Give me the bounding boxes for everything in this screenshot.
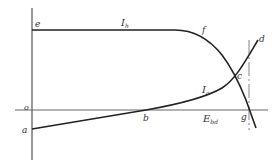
label-c: c (237, 71, 242, 81)
diagram: e f c d o a b g Ih Ia Ebd (0, 0, 280, 165)
label-e: e (35, 19, 40, 29)
label-g: g (241, 112, 247, 122)
label-ia: Ia (201, 84, 210, 96)
label-ebd-sub: bd (210, 118, 218, 125)
label-b: b (143, 113, 149, 123)
label-ebd: Ebd (202, 113, 218, 125)
label-ia-sub: a (206, 89, 210, 96)
label-d: d (259, 34, 265, 44)
label-ih-sub: h (125, 22, 129, 29)
label-o: o (24, 103, 29, 112)
label-ih: Ih (120, 17, 129, 29)
label-f: f (201, 25, 207, 35)
label-a: a (22, 125, 27, 135)
